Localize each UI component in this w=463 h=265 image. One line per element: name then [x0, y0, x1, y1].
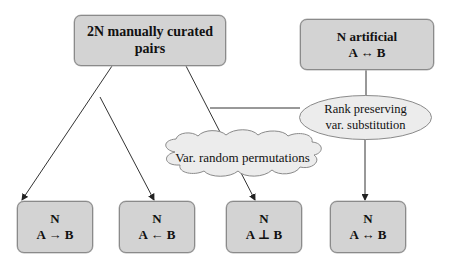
artificial-node-line2: A ↔ B	[349, 45, 386, 61]
output-1-line1: N	[50, 211, 59, 227]
output-3-line2: A ⊥ B	[246, 227, 282, 243]
output-node-independent: N A ⊥ B	[226, 201, 302, 253]
output-2-line2: A ← B	[139, 227, 176, 243]
output-node-a-causes-b: N A → B	[17, 201, 93, 253]
rank-node-line1: Rank preserving	[324, 102, 406, 118]
output-3-line1: N	[259, 211, 268, 227]
rank-node-line2: var. substitution	[326, 118, 406, 134]
source-node-label: 2N manually curated pairs	[75, 24, 225, 58]
output-2-line1: N	[152, 211, 161, 227]
rank-preserving-node: Rank preserving var. substitution	[300, 96, 431, 140]
source-node-manually-curated-pairs: 2N manually curated pairs	[74, 15, 226, 66]
output-4-line1: N	[363, 211, 372, 227]
output-1-line2: A → B	[37, 227, 74, 243]
artificial-node: N artificial A ↔ B	[300, 19, 434, 70]
output-node-bidirectional: N A ↔ B	[330, 201, 406, 253]
permutation-node-label: Var. random permutations	[175, 150, 310, 166]
artificial-node-line1: N artificial	[337, 29, 397, 45]
output-node-b-causes-a: N A ← B	[119, 201, 195, 253]
permutation-node: Var. random permutations	[165, 145, 320, 171]
output-4-line2: A ↔ B	[350, 227, 387, 243]
edge-source-to-output-1	[22, 66, 112, 200]
edge-branch-to-output-2	[100, 97, 154, 200]
